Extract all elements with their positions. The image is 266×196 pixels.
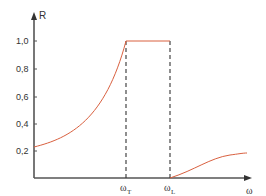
x-tick-label-omega-T: ω T	[120, 182, 132, 196]
svg-text:T: T	[127, 188, 132, 196]
y-tick-label: 0,2	[16, 146, 29, 156]
curve-above-omega-L	[170, 153, 247, 178]
y-axis-arrow-icon	[31, 12, 37, 20]
x-axis-label: ω	[246, 185, 253, 196]
x-axis-arrow-icon	[244, 175, 252, 181]
svg-text:ω: ω	[164, 182, 171, 193]
y-tick-label: 0,4	[16, 119, 29, 129]
y-tick-label: 0,6	[16, 92, 29, 102]
y-tick-label: 1,0	[16, 36, 29, 46]
reflectivity-chart: 1,0 0,8 0,6 0,4 0,2 R ω ω T ω L	[0, 0, 266, 196]
svg-text:L: L	[171, 188, 175, 196]
x-tick-label-omega-L: ω L	[164, 182, 175, 196]
svg-text:ω: ω	[120, 182, 127, 193]
y-axis-label: R	[39, 10, 46, 21]
curve-below-omega-T	[34, 41, 126, 147]
y-tick-label: 0,8	[16, 64, 29, 74]
